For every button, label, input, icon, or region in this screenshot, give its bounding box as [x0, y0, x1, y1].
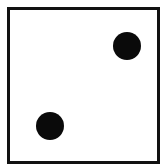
- die-face: [7, 7, 160, 164]
- pip-bottom-left-icon: [36, 112, 64, 140]
- pip-top-right-icon: [113, 32, 141, 60]
